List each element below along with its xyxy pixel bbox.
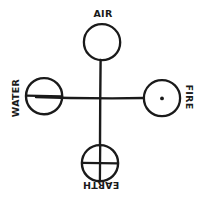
water-label: WATER	[10, 78, 21, 117]
water-bar-icon	[26, 96, 62, 97]
fire-label: FIRE	[184, 84, 195, 109]
vertical-axis-line	[100, 60, 101, 146]
node-fire[interactable]: FIRE	[144, 80, 195, 116]
four-elements-diagram: AIR WATER FIRE EARTH	[0, 0, 199, 206]
fire-center-dot-icon	[160, 97, 164, 101]
node-earth[interactable]: EARTH	[82, 145, 119, 191]
air-circle-icon	[84, 24, 120, 60]
earth-label: EARTH	[83, 180, 120, 191]
node-air[interactable]: AIR	[84, 8, 120, 60]
diagram-canvas: AIR WATER FIRE EARTH	[0, 0, 199, 206]
air-label: AIR	[93, 8, 112, 19]
axis-group	[36, 60, 144, 146]
